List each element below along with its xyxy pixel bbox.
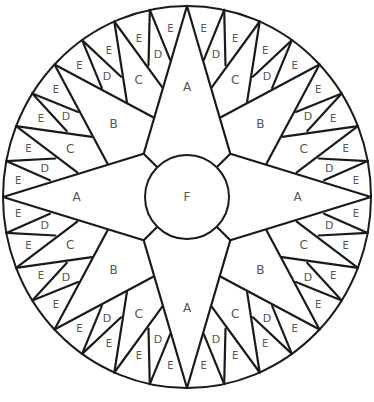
label-d: D <box>41 162 49 175</box>
label-b: B <box>256 263 264 277</box>
label-e: E <box>292 323 298 334</box>
label-e: E <box>292 60 298 71</box>
label-e: E <box>200 360 206 371</box>
label-e: E <box>38 113 44 124</box>
label-c: C <box>231 307 239 321</box>
label-e: E <box>25 240 31 251</box>
label-e: E <box>76 60 82 71</box>
label-e: E <box>25 143 31 154</box>
label-e: E <box>262 45 268 56</box>
label-c: C <box>300 142 308 156</box>
label-c: C <box>66 142 74 156</box>
label-c: C <box>135 73 143 87</box>
label-e: E <box>262 338 268 349</box>
d-point-edge <box>149 10 150 65</box>
compass-svg: CDDEEEECDDEEEEABCDDEEEECDDEEEEABCDDEEEEC… <box>0 0 374 402</box>
label-e: E <box>232 33 238 44</box>
label-e: E <box>330 270 336 281</box>
label-b: B <box>256 117 264 131</box>
label-d: D <box>62 271 70 284</box>
label-e: E <box>315 299 321 310</box>
label-d: D <box>62 110 70 123</box>
label-e: E <box>315 84 321 95</box>
label-a: A <box>183 80 192 94</box>
label-e: E <box>167 360 173 371</box>
label-d: D <box>212 333 220 346</box>
d-point-edge <box>224 10 225 65</box>
label-e: E <box>106 45 112 56</box>
d-point-edge <box>224 329 225 384</box>
label-e: E <box>167 23 173 34</box>
label-b: B <box>110 263 118 277</box>
label-c: C <box>231 73 239 87</box>
label-c: C <box>66 238 74 252</box>
label-a: A <box>293 190 302 204</box>
d-point-edge <box>149 329 150 384</box>
label-e: E <box>342 240 348 251</box>
compass-diagram: CDDEEEECDDEEEEABCDDEEEECDDEEEEABCDDEEEEC… <box>0 0 374 402</box>
label-a: A <box>183 301 192 315</box>
label-d: D <box>41 219 49 232</box>
label-d: D <box>263 70 271 83</box>
label-e: E <box>53 299 59 310</box>
label-d: D <box>304 110 312 123</box>
label-e: E <box>200 23 206 34</box>
label-e: E <box>15 208 21 219</box>
label-d: D <box>325 219 333 232</box>
label-e: E <box>53 84 59 95</box>
label-e: E <box>136 350 142 361</box>
label-e: E <box>15 175 21 186</box>
label-d: D <box>304 271 312 284</box>
label-a: A <box>72 190 81 204</box>
label-e: E <box>353 208 359 219</box>
label-d: D <box>154 333 162 346</box>
label-e: E <box>76 323 82 334</box>
label-e: E <box>353 175 359 186</box>
label-e: E <box>106 338 112 349</box>
label-e: E <box>38 270 44 281</box>
label-c: C <box>300 238 308 252</box>
label-b: B <box>110 117 118 131</box>
label-c: C <box>135 307 143 321</box>
label-e: E <box>342 143 348 154</box>
label-e: E <box>232 350 238 361</box>
label-e: E <box>136 33 142 44</box>
label-d: D <box>212 48 220 61</box>
label-d: D <box>325 162 333 175</box>
label-d: D <box>103 312 111 325</box>
label-e: E <box>330 113 336 124</box>
label-d: D <box>263 312 271 325</box>
label-d: D <box>154 48 162 61</box>
label-d: D <box>103 70 111 83</box>
label-f: F <box>184 190 191 204</box>
